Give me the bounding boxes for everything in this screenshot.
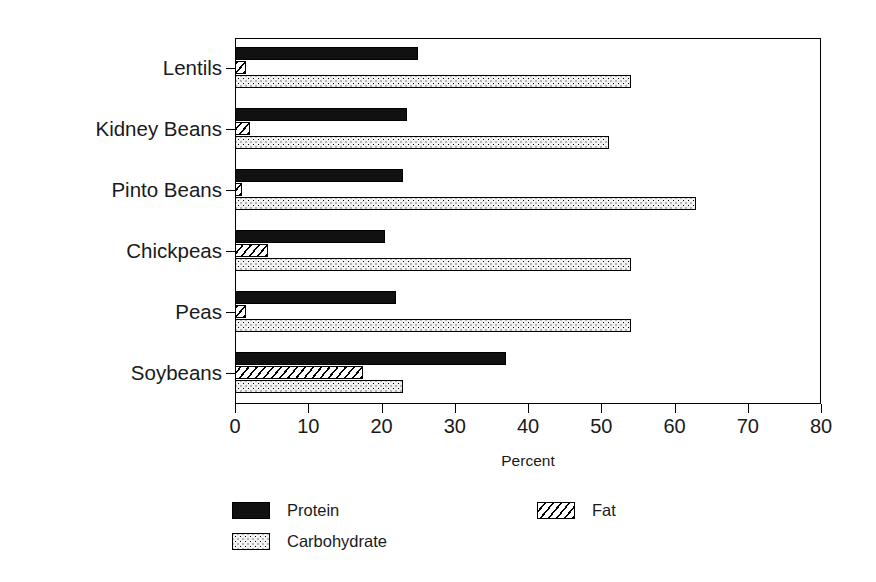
x-axis-tick: [675, 404, 676, 413]
bar-pinto-beans-carbohydrate: [235, 197, 696, 210]
bar-chickpeas-fat: [235, 244, 268, 257]
y-axis-tick: [226, 190, 236, 191]
y-axis-tick: [226, 129, 236, 130]
x-axis-tick-label: 10: [278, 416, 338, 436]
legend-label-fat: Fat: [592, 502, 616, 519]
legend-item-protein: Protein: [232, 502, 339, 519]
x-axis-tick: [821, 404, 822, 413]
legend-label-protein: Protein: [287, 502, 339, 519]
y-axis-tick: [226, 251, 236, 252]
y-axis-label-kidney-beans: Kidney Beans: [0, 118, 222, 139]
y-axis-tick: [226, 373, 236, 374]
bar-peas-carbohydrate: [235, 319, 631, 332]
y-axis-tick: [226, 312, 236, 313]
bar-kidney-beans-protein: [235, 108, 407, 121]
chart-legend: Protein Fat Carbohydrate: [232, 500, 752, 570]
bar-lentils-protein: [235, 47, 418, 60]
bar-pinto-beans-protein: [235, 169, 403, 182]
bars-layer: [235, 38, 821, 404]
x-axis-tick: [748, 404, 749, 413]
bar-lentils-fat: [235, 61, 246, 74]
bar-lentils-carbohydrate: [235, 75, 631, 88]
legend-swatch-protein-icon: [232, 502, 270, 519]
x-axis-tick: [455, 404, 456, 413]
x-axis-title: Percent: [235, 453, 821, 469]
y-axis-label-chickpeas: Chickpeas: [0, 240, 222, 261]
y-axis-label-peas: Peas: [0, 301, 222, 322]
bar-chickpeas-carbohydrate: [235, 258, 631, 271]
x-axis-tick-label: 70: [718, 416, 778, 436]
bar-peas-fat: [235, 305, 246, 318]
y-axis-tick: [226, 68, 236, 69]
bar-soybeans-fat: [235, 366, 363, 379]
bar-chart: LentilsKidney BeansPinto BeansChickpeasP…: [0, 0, 876, 582]
x-axis-tick-label: 40: [498, 416, 558, 436]
x-axis-tick-label: 50: [571, 416, 631, 436]
legend-item-fat: Fat: [537, 502, 616, 519]
y-axis-label-pinto-beans: Pinto Beans: [0, 179, 222, 200]
x-axis-tick-label: 20: [352, 416, 412, 436]
bar-kidney-beans-fat: [235, 122, 250, 135]
bar-soybeans-protein: [235, 352, 506, 365]
bar-soybeans-carbohydrate: [235, 380, 403, 393]
x-axis-tick: [235, 404, 236, 413]
y-axis-category-labels: LentilsKidney BeansPinto BeansChickpeasP…: [0, 38, 222, 404]
x-axis-tick: [382, 404, 383, 413]
y-axis-label-soybeans: Soybeans: [0, 362, 222, 383]
x-axis-tick-label: 30: [425, 416, 485, 436]
x-axis-tick: [601, 404, 602, 413]
legend-swatch-fat-icon: [537, 502, 575, 519]
legend-item-carbohydrate: Carbohydrate: [232, 533, 387, 550]
bar-chickpeas-protein: [235, 230, 385, 243]
bar-peas-protein: [235, 291, 396, 304]
y-axis-label-lentils: Lentils: [0, 57, 222, 78]
x-axis-tick-label: 0: [205, 416, 265, 436]
x-axis-tick: [308, 404, 309, 413]
x-axis-tick-label: 60: [645, 416, 705, 436]
x-axis-tick-label: 80: [791, 416, 851, 436]
bar-kidney-beans-carbohydrate: [235, 136, 609, 149]
x-axis-tick: [528, 404, 529, 413]
bar-pinto-beans-fat: [235, 183, 242, 196]
legend-swatch-carbohydrate-icon: [232, 533, 270, 550]
legend-label-carbohydrate: Carbohydrate: [287, 533, 387, 550]
